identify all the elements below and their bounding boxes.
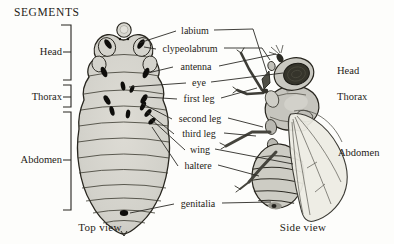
larva-head-knob-inner (120, 26, 128, 34)
genital-disc (120, 210, 128, 216)
larva-region-thorax: Thorax (12, 91, 62, 103)
label-labium: labium (181, 25, 209, 37)
fly-region-head: Head (337, 65, 359, 77)
label-eye: eye (192, 77, 206, 89)
fly-region-abdomen: Abdomen (338, 147, 379, 159)
fly-region-thorax: Thorax (337, 91, 367, 103)
label-first-leg: first leg (184, 93, 215, 105)
fly-wing (288, 110, 347, 221)
larva-region-head: Head (12, 46, 62, 58)
fly-illustration (220, 45, 347, 221)
fly-genitalia (272, 204, 277, 208)
larva-illustration (78, 23, 170, 236)
label-clypeolabrum: clypeolabrum (163, 43, 218, 55)
label-genitalia: genitalia (181, 198, 215, 210)
fly-front-legs (233, 48, 263, 94)
head-bracket (61, 25, 71, 80)
abdomen-bracket (63, 112, 71, 210)
fly-caption: Side view (280, 221, 326, 233)
figure-imaginal-discs: SEGMENTS Head Thorax Abdomen labium clyp… (0, 0, 394, 244)
label-haltere: haltere (184, 160, 211, 172)
larva-region-abdomen: Abdomen (6, 154, 62, 166)
mouth-hook-right (127, 38, 129, 40)
larva-caption: Top view (78, 221, 121, 233)
segment-brackets (61, 25, 71, 210)
fly-clypeolabrum (267, 61, 276, 71)
label-third-leg: third leg (182, 128, 216, 140)
thorax-bracket (63, 85, 71, 107)
figure-title: SEGMENTS (14, 6, 80, 18)
label-wing: wing (190, 144, 210, 156)
fly-antenna (269, 45, 285, 63)
mouth-hook-left (119, 38, 121, 40)
label-second-leg: second leg (179, 113, 222, 125)
label-antenna: antenna (180, 61, 211, 73)
leader-line-antenna (148, 54, 276, 73)
